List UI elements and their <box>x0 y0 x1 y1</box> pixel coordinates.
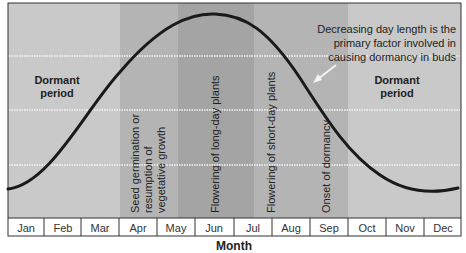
month-oct: Oct <box>358 222 375 234</box>
month-apr: Apr <box>129 222 146 234</box>
month-axis <box>8 218 461 236</box>
onset-label: Onset of dormancy <box>320 120 332 213</box>
month-labels: Jan Feb Mar Apr May Jun Jul Aug Sep Oct … <box>17 222 453 234</box>
short-day-label: Flowering of short-day plants <box>265 71 277 213</box>
annotation-line1: Decreasing day length is the <box>317 23 456 35</box>
month-aug: Aug <box>281 222 301 234</box>
seed-line3: vegetative growth <box>155 127 167 213</box>
month-may: May <box>166 222 187 234</box>
seed-line2: resumption of <box>142 145 154 213</box>
month-feb: Feb <box>54 222 73 234</box>
month-jan: Jan <box>17 222 35 234</box>
dormant-left-line2: period <box>40 87 74 99</box>
photoperiod-diagram: Jan Feb Mar Apr May Jun Jul Aug Sep Oct … <box>0 0 466 253</box>
month-jul: Jul <box>246 222 260 234</box>
dormant-right-line1: Dormant <box>374 74 420 86</box>
month-dec: Dec <box>433 222 453 234</box>
seed-line1: Seed germination or <box>129 114 141 213</box>
annotation-line2: primary factor involved in <box>334 37 456 49</box>
dormant-left-line1: Dormant <box>34 74 80 86</box>
annotation-line3: causing dormancy in buds <box>328 51 456 63</box>
month-mar: Mar <box>91 222 110 234</box>
x-axis-title: Month <box>216 239 252 253</box>
long-day-label: Flowering of long-day plants <box>209 75 221 213</box>
month-nov: Nov <box>395 222 415 234</box>
month-sep: Sep <box>319 222 339 234</box>
dormant-right-line2: period <box>380 87 414 99</box>
month-jun: Jun <box>205 222 223 234</box>
